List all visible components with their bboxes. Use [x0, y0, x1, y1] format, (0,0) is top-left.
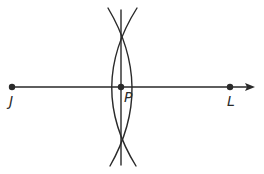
- construction-diagram: [0, 0, 264, 174]
- point-j: [9, 84, 15, 90]
- label-j: J: [9, 94, 13, 108]
- label-l: L: [227, 94, 235, 108]
- point-l: [227, 84, 233, 90]
- label-p: P: [124, 90, 132, 104]
